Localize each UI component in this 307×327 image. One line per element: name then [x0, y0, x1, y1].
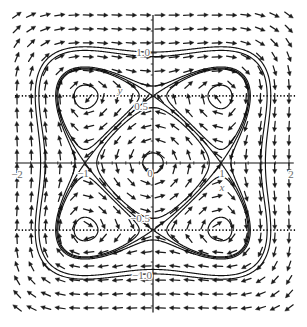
direction-arrow: [15, 93, 19, 104]
direction-arrow: [212, 55, 222, 59]
direction-arrow: [155, 292, 166, 296]
direction-arrow: [270, 13, 280, 18]
direction-arrow: [155, 250, 165, 254]
direction-arrow: [169, 250, 179, 254]
direction-arrow: [258, 205, 262, 215]
direction-arrow: [212, 194, 222, 198]
direction-arrow: [273, 177, 277, 187]
direction-arrow: [228, 81, 236, 88]
direction-arrow: [286, 276, 291, 285]
direction-arrow: [114, 136, 121, 144]
direction-arrow: [198, 41, 208, 45]
direction-arrow: [44, 80, 48, 90]
direction-arrow: [69, 41, 79, 45]
x-tick-label: −2: [11, 168, 23, 180]
direction-arrow: [83, 55, 93, 59]
direction-arrow: [58, 163, 62, 173]
direction-arrow: [244, 177, 248, 187]
direction-arrow: [71, 109, 78, 117]
direction-arrow: [287, 261, 291, 271]
direction-arrow: [29, 177, 33, 187]
direction-arrow: [29, 247, 33, 257]
direction-arrow: [15, 80, 19, 90]
direction-arrow: [28, 39, 35, 46]
direction-arrow: [258, 191, 262, 201]
direction-arrow: [84, 181, 94, 185]
direction-arrow: [285, 305, 293, 311]
direction-arrow: [258, 121, 262, 131]
direction-arrow: [184, 278, 194, 282]
direction-arrow: [198, 264, 208, 268]
direction-arrow: [244, 163, 248, 173]
direction-arrow: [15, 52, 19, 62]
direction-arrow: [112, 278, 122, 282]
direction-arrow: [27, 306, 36, 311]
direction-arrow: [127, 193, 135, 199]
direction-arrow: [28, 276, 35, 284]
direction-arrow: [101, 163, 105, 173]
direction-arrow: [198, 13, 208, 17]
direction-arrow: [255, 27, 265, 31]
direction-arrow: [15, 191, 19, 201]
direction-arrow: [142, 151, 150, 158]
direction-arrow: [84, 221, 93, 227]
direction-arrow: [14, 276, 19, 285]
direction-arrow: [229, 234, 235, 242]
direction-arrow: [244, 191, 248, 201]
direction-arrow: [141, 13, 152, 17]
direction-arrow: [184, 69, 194, 73]
direction-arrow: [71, 123, 78, 130]
direction-arrow: [226, 306, 236, 310]
direction-arrow: [242, 67, 250, 74]
direction-arrow: [201, 163, 205, 173]
direction-arrow: [69, 292, 79, 296]
direction-arrow: [126, 292, 136, 296]
direction-arrow: [256, 292, 266, 296]
direction-arrow: [141, 292, 152, 296]
x-tick-labels: −2 −1 0 1 2: [11, 167, 294, 180]
direction-arrow: [271, 39, 278, 46]
direction-arrow: [128, 137, 136, 144]
direction-arrow: [273, 66, 277, 76]
direction-arrow: [29, 163, 33, 174]
direction-arrow: [29, 80, 33, 90]
direction-arrow: [15, 247, 19, 257]
direction-arrow: [273, 205, 277, 215]
direction-arrow: [258, 80, 262, 90]
direction-arrow: [273, 191, 277, 201]
direction-arrow: [241, 27, 251, 31]
direction-arrow: [99, 109, 106, 116]
direction-arrow: [69, 55, 79, 59]
direction-arrow: [126, 264, 136, 268]
direction-arrow: [169, 278, 179, 282]
direction-arrow: [185, 109, 192, 117]
direction-arrow: [15, 233, 19, 243]
direction-arrow: [270, 26, 279, 32]
direction-arrow: [228, 109, 235, 117]
direction-arrow: [241, 306, 251, 310]
direction-arrow: [141, 181, 151, 185]
direction-arrow: [99, 193, 107, 200]
direction-arrow: [228, 193, 235, 201]
direction-arrow: [55, 27, 65, 31]
direction-arrow: [172, 150, 176, 160]
direction-arrow: [69, 306, 79, 310]
direction-arrow: [155, 264, 165, 268]
direction-arrow: [126, 250, 136, 254]
direction-arrow: [241, 278, 251, 282]
direction-arrow: [42, 53, 50, 60]
direction-arrow: [212, 110, 222, 114]
direction-arrow: [141, 195, 151, 199]
direction-arrow: [84, 111, 94, 115]
direction-arrow: [198, 292, 208, 296]
direction-arrow: [170, 124, 178, 130]
direction-arrow: [83, 13, 94, 17]
direction-arrow: [272, 121, 276, 131]
direction-arrow: [198, 306, 208, 310]
direction-arrow: [69, 13, 79, 17]
direction-arrow: [212, 292, 223, 296]
direction-arrow: [227, 41, 237, 45]
direction-arrow: [29, 94, 33, 104]
direction-arrow: [15, 219, 19, 229]
direction-arrow: [169, 69, 179, 73]
